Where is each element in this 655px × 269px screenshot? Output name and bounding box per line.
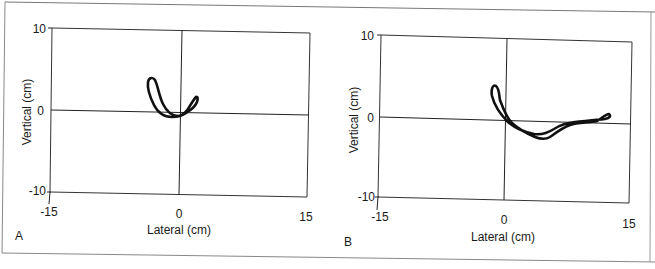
x-tick-mid-b: 0 bbox=[501, 213, 508, 227]
panel-a: 10 0 -10 -15 0 15 Lateral (cm) Vertical … bbox=[15, 22, 313, 243]
trajectory-a bbox=[148, 78, 198, 117]
panel-label-b: B bbox=[344, 235, 352, 249]
x-axis-label-b: Lateral (cm) bbox=[471, 230, 535, 244]
y-axis-label-a: Vertical (cm) bbox=[20, 79, 34, 146]
x-tick-min-a: -15 bbox=[40, 205, 58, 219]
x-axis-label-a: Lateral (cm) bbox=[147, 223, 211, 237]
y-tick-mid-a: 0 bbox=[37, 104, 44, 118]
y-tick-max-a: 10 bbox=[33, 22, 47, 36]
x-tick-min-b: -15 bbox=[371, 210, 389, 224]
page-edge-top bbox=[5, 2, 655, 12]
panel-b: 10 0 -10 -15 0 15 Lateral (cm) Vertical … bbox=[344, 29, 636, 249]
page-edge-left bbox=[2, 2, 5, 253]
panel-label-a: A bbox=[15, 229, 23, 243]
y-tick-min-a: -10 bbox=[29, 184, 47, 198]
x-tick-max-a: 15 bbox=[299, 210, 313, 224]
y-tick-max-b: 10 bbox=[361, 29, 375, 43]
x-tick-max-b: 15 bbox=[622, 217, 636, 231]
trajectory-b bbox=[492, 86, 610, 139]
y-tick-min-b: -10 bbox=[358, 190, 376, 204]
page-edge-right bbox=[650, 12, 651, 262]
figure: 10 0 -10 -15 0 15 Lateral (cm) Vertical … bbox=[0, 0, 655, 269]
x-tick-mid-a: 0 bbox=[176, 207, 183, 221]
y-axis-label-b: Vertical (cm) bbox=[347, 87, 361, 154]
y-tick-mid-b: 0 bbox=[367, 111, 374, 125]
page-edge-bottom bbox=[2, 253, 655, 262]
